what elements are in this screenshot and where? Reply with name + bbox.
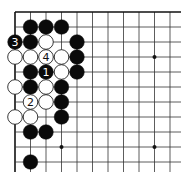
black-stone <box>39 20 54 35</box>
black-stone <box>70 50 85 65</box>
white-stone <box>54 65 69 80</box>
black-stone <box>54 110 69 125</box>
white-stone <box>39 95 54 110</box>
black-stone <box>54 95 69 110</box>
white-stone <box>8 110 23 125</box>
black-stone <box>23 65 38 80</box>
black-stone <box>23 20 38 35</box>
black-stone <box>54 20 69 35</box>
black-stone <box>70 65 85 80</box>
move-number-label: 4 <box>43 51 50 64</box>
black-stone <box>23 125 38 140</box>
black-stone <box>23 35 38 50</box>
white-stone <box>8 80 23 95</box>
move-number-label: 2 <box>27 96 34 109</box>
star-point <box>60 145 64 149</box>
white-stone: 2 <box>23 95 38 110</box>
go-board: 3412 <box>0 0 193 179</box>
white-stone <box>23 110 38 125</box>
move-number-label: 3 <box>12 36 19 49</box>
white-stone: 4 <box>39 50 54 65</box>
star-point <box>153 55 157 59</box>
white-stone <box>23 50 38 65</box>
black-stone: 3 <box>8 35 23 50</box>
white-stone <box>54 50 69 65</box>
white-stone <box>39 35 54 50</box>
star-point <box>153 145 157 149</box>
black-stone <box>70 35 85 50</box>
black-stone <box>54 80 69 95</box>
black-stone: 1 <box>39 65 54 80</box>
black-stone <box>23 80 38 95</box>
black-stone <box>39 125 54 140</box>
white-stone <box>8 50 23 65</box>
black-stone <box>23 155 38 170</box>
move-number-label: 1 <box>43 66 50 79</box>
white-stone <box>39 80 54 95</box>
